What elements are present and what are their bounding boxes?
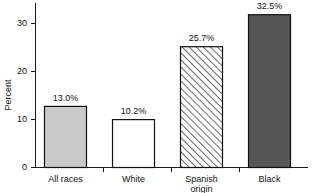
y-tick-label-30: 30: [17, 18, 27, 28]
x-category-label-white: White: [122, 174, 145, 184]
y-tick-label-20: 20: [17, 66, 27, 76]
y-tick-label-10: 10: [17, 114, 27, 124]
x-category-label-all-races: All races: [48, 174, 83, 184]
bar-chart-figure: 0 10 20 30 Percent 13.0% All races 10.2%…: [0, 0, 312, 193]
bar-value-label-white: 10.2%: [121, 106, 147, 116]
x-category-label-black: Black: [258, 174, 281, 184]
y-axis-title: Percent: [3, 79, 13, 111]
bar-value-label-spanish-origin: 25.7%: [189, 33, 215, 43]
bar-white: [113, 120, 155, 168]
bar-group-black: 32.5% Black: [249, 1, 291, 184]
chart-canvas: 0 10 20 30 Percent 13.0% All races 10.2%…: [0, 0, 312, 193]
bar-value-label-all-races: 13.0%: [53, 93, 79, 103]
y-tick-label-0: 0: [22, 162, 27, 172]
bar-spanish-origin: [181, 47, 223, 168]
x-category-label-spanish-origin-line2: origin: [190, 184, 212, 193]
bar-all-races: [45, 106, 87, 167]
bar-value-label-black: 32.5%: [257, 1, 283, 11]
bar-black: [249, 15, 291, 168]
x-category-label-spanish-origin-line1: Spanish: [185, 174, 218, 184]
